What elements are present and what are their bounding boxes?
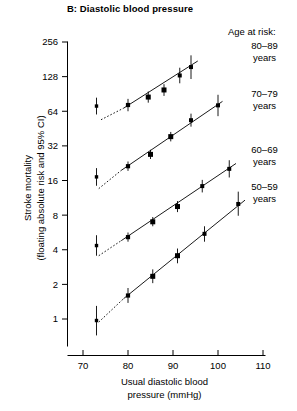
data-point [95,244,98,247]
data-point [148,152,153,157]
trend-line [121,163,236,240]
y-tick-label-16: 16 [47,175,58,186]
trend-line-dashed [99,299,124,322]
x-axis-ticks: 708090100110 [78,350,271,371]
data-point [126,293,130,297]
data-point [189,65,193,69]
y-tick-label-32: 32 [47,140,58,151]
series-1 [95,95,223,189]
x-tick-label-90: 90 [168,360,179,371]
y-tick-label-128: 128 [42,71,58,82]
y-tick-label-4: 4 [53,244,58,255]
y-tick-label-1: 1 [53,313,58,324]
legend-item-unit: years [238,100,291,112]
legend-item-unit: years [238,156,291,168]
y-axis-title-line1: Stroke mortality [21,93,34,283]
y-tick-label-2: 2 [53,279,58,290]
series-3 [95,192,245,336]
data-point [150,274,155,279]
data-point [162,87,167,92]
y-tick-label-64: 64 [47,106,58,117]
legend-item-unit: years [238,52,291,64]
data-point [168,134,173,139]
trend-line [124,200,246,299]
data-point [189,118,193,122]
trend-line-dashed [99,241,122,256]
y-tick-label-8: 8 [53,210,58,221]
legend-item-0: 80–89years [238,40,291,64]
x-tick-label-110: 110 [255,360,270,371]
chart-page: B: Diastolic blood pressure 124816326412… [0,0,297,411]
data-point [126,164,130,168]
x-axis-title-line1: Usual diastolic blood [62,376,267,389]
legend-item-3: 50–59years [238,181,291,205]
data-point [216,103,220,107]
legend-item-unit: years [238,193,291,205]
legend: Age at risk: 80–89years70–79years60–69ye… [228,26,297,45]
x-tick-label-100: 100 [210,360,226,371]
data-point [227,167,231,171]
data-point [95,175,98,178]
x-tick-label-80: 80 [123,360,134,371]
legend-item-range: 60–69 [238,144,291,156]
legend-heading: Age at risk: [228,26,297,38]
data-point [200,184,204,188]
legend-item-1: 70–79years [238,88,291,112]
x-axis-title-line2: pressure (mmHg) [62,389,267,402]
data-point [150,219,155,224]
data-point [126,103,130,107]
legend-item-range: 80–89 [238,40,291,52]
data-point [178,73,182,77]
series-0 [95,55,198,119]
data-point [146,95,151,100]
x-axis-title: Usual diastolic blood pressure (mmHg) [62,376,267,401]
data-point [175,253,180,258]
legend-item-range: 50–59 [238,181,291,193]
data-point [203,232,207,236]
legend-item-range: 70–79 [238,88,291,100]
data-point [175,204,180,209]
data-point [95,104,98,107]
trend-line [124,61,198,108]
x-tick-label-70: 70 [78,360,89,371]
legend-item-2: 60–69years [238,144,291,168]
data-series-group [95,55,245,335]
trend-line-dashed [99,170,122,188]
data-point [126,235,130,239]
y-tick-label-256: 256 [42,36,58,47]
y-axis-title: Stroke mortality (floating absolute risk… [21,93,47,283]
y-axis-title-line2: (floating absolute risk and 95% CI) [34,93,47,283]
trend-line-dashed [101,108,124,120]
data-point [95,319,98,322]
